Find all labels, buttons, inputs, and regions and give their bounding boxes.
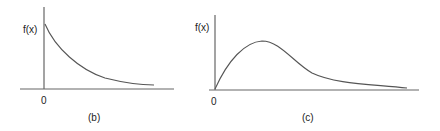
figure-b bbox=[20, 7, 174, 89]
origin-label-b: 0 bbox=[41, 96, 47, 106]
caption-b: (b) bbox=[88, 113, 100, 123]
figure-c bbox=[209, 15, 419, 90]
ylabel-c: f(x) bbox=[195, 23, 209, 33]
ylabel-b: f(x) bbox=[23, 25, 37, 35]
figure-canvas bbox=[0, 0, 440, 131]
decay-curve bbox=[45, 24, 154, 85]
skewed-curve bbox=[215, 41, 407, 89]
caption-c: (c) bbox=[302, 113, 314, 123]
origin-label-c: 0 bbox=[211, 97, 217, 107]
